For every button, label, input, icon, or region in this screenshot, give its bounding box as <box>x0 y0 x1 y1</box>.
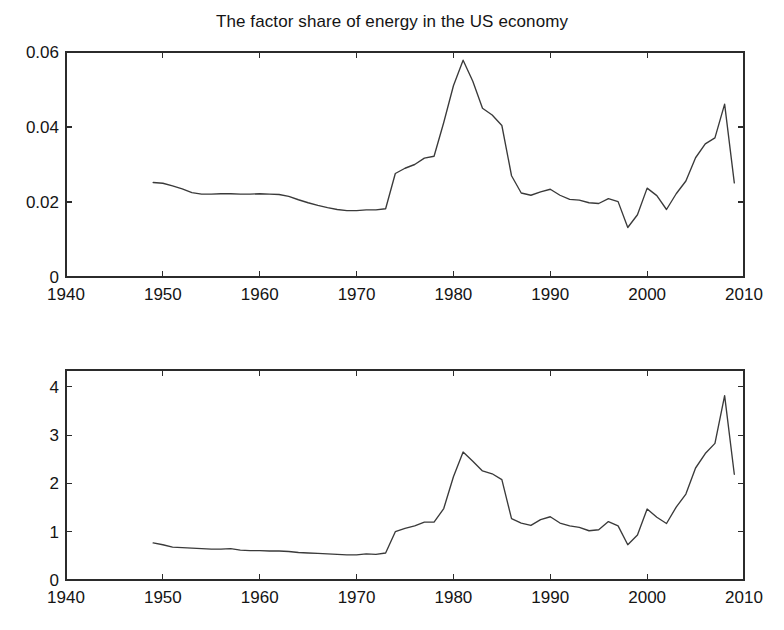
energy-share-xticklabel: 1940 <box>47 285 85 304</box>
energy-share-xticklabel: 2010 <box>725 285 763 304</box>
fuel-price-yticklabel: 2 <box>50 474 59 493</box>
chart-panel-energy-share: The factor share of energy in the US eco… <box>0 0 784 330</box>
energy-share-xticklabel: 1950 <box>144 285 182 304</box>
chart-panel-fuel-price: Fossil fuel price (composite) 1940195019… <box>0 330 784 630</box>
fuel-price-xticklabel: 1950 <box>144 588 182 607</box>
energy-share-yticklabel: 0 <box>50 268 59 287</box>
fuel-price-yticklabel: 1 <box>50 523 59 542</box>
energy-share-plot-box <box>66 52 744 277</box>
energy-share-series-line <box>153 60 734 227</box>
figure-container: The factor share of energy in the US eco… <box>0 0 784 630</box>
fuel-price-xticklabel: 1990 <box>531 588 569 607</box>
energy-share-yticklabel: 0.06 <box>26 43 59 62</box>
energy-share-xticklabel: 1990 <box>531 285 569 304</box>
fuel-price-xticklabel: 1940 <box>47 588 85 607</box>
chart-svg-energy-share: 1940195019601970198019902000201000.020.0… <box>0 0 784 330</box>
fuel-price-xticklabel: 1960 <box>241 588 279 607</box>
energy-share-yticklabel: 0.02 <box>26 193 59 212</box>
fuel-price-xticklabel: 2010 <box>725 588 763 607</box>
energy-share-yticklabel: 0.04 <box>26 118 59 137</box>
fuel-price-xticklabel: 1970 <box>338 588 376 607</box>
chart-svg-fuel-price: 1940195019601970198019902000201001234 <box>0 330 784 630</box>
fuel-price-plot-box <box>66 370 744 580</box>
fuel-price-yticklabel: 0 <box>50 571 59 590</box>
fuel-price-xticklabel: 2000 <box>628 588 666 607</box>
fuel-price-yticklabel: 3 <box>50 426 59 445</box>
fuel-price-xticklabel: 1980 <box>435 588 473 607</box>
chart-title-energy-share: The factor share of energy in the US eco… <box>0 12 784 32</box>
energy-share-xticklabel: 2000 <box>628 285 666 304</box>
energy-share-xticklabel: 1970 <box>338 285 376 304</box>
energy-share-xticklabel: 1980 <box>435 285 473 304</box>
fuel-price-series-line <box>153 396 734 555</box>
fuel-price-yticklabel: 4 <box>50 378 59 397</box>
energy-share-xticklabel: 1960 <box>241 285 279 304</box>
